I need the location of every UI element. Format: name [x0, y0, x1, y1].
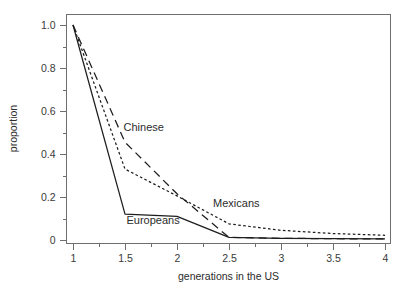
- chart-canvas: 11.522.533.54 00.20.40.60.81.0 Europeans…: [0, 0, 412, 292]
- y-tick-label-1: 0.2: [41, 191, 56, 203]
- y-tick-label-3: 0.6: [41, 105, 56, 117]
- chart-figure: 11.522.533.54 00.20.40.60.81.0 Europeans…: [0, 0, 412, 292]
- chart-background: [0, 0, 412, 292]
- y-tick-label-0: 0: [50, 234, 56, 246]
- series-label-chinese: Chinese: [124, 121, 164, 133]
- x-tick-label-3: 2.5: [222, 252, 237, 264]
- y-tick-label-4: 0.8: [41, 62, 56, 74]
- x-tick-label-0: 1: [71, 252, 77, 264]
- y-tick-label-2: 0.4: [41, 148, 56, 160]
- x-tick-label-2: 2: [175, 252, 181, 264]
- x-axis-title: generations in the US: [178, 270, 279, 282]
- y-axis-title: proportion: [7, 105, 19, 152]
- y-tick-label-5: 1.0: [41, 19, 56, 31]
- x-tick-label-4: 3: [279, 252, 285, 264]
- series-label-europeans: Europeans: [126, 214, 180, 226]
- series-label-mexicans: Mexicans: [213, 197, 260, 209]
- x-tick-label-6: 4: [383, 252, 389, 264]
- x-tick-label-1: 1.5: [118, 252, 133, 264]
- x-tick-label-5: 3.5: [326, 252, 341, 264]
